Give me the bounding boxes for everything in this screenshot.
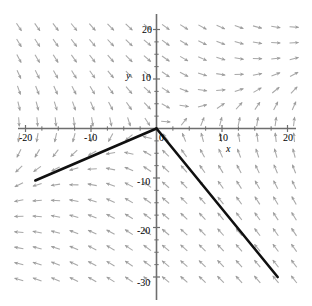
- plot-canvas: [0, 0, 312, 306]
- direction-field-figure: -20 -10 0 10 20 20 10 -10 -20 -30 y x: [0, 0, 312, 306]
- x-tick-label-20: 20: [283, 133, 293, 143]
- y-axis-label: y: [126, 71, 130, 81]
- x-tick-label--10: -10: [84, 133, 97, 143]
- x-tick-label-0: 0: [159, 133, 164, 143]
- x-tick-label-10: 10: [218, 133, 228, 143]
- y-axis-ticks: [153, 30, 160, 278]
- y-tick-label--20: -20: [137, 226, 150, 236]
- x-tick-label--20: -20: [19, 133, 32, 143]
- y-tick-label--10: -10: [137, 177, 150, 187]
- x-axis-label: x: [226, 144, 230, 154]
- y-tick-label-20: 20: [142, 25, 152, 35]
- y-tick-label--30: -30: [137, 278, 150, 288]
- y-tick-label-10: 10: [141, 73, 151, 83]
- axes: [18, 14, 296, 300]
